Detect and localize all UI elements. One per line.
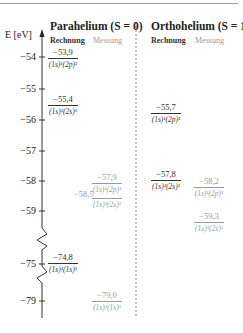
tick-label: −75 [6,258,36,269]
energy-level: (1s)¹(2s)¹ [92,188,122,208]
energy-level: −57,8 (1s)¹(2s)¹ [151,170,181,190]
tick-label: −59 [6,205,36,216]
tick-label: −58 [6,175,36,186]
level-value: −58,2 [194,177,224,187]
tick-label: −79 [6,295,36,306]
level-config: (1s)¹(2s)¹ [92,199,122,209]
tick-label: −54 [6,51,36,62]
level-value: −57,8 [151,170,181,180]
orthohelium-meas-label: Messung [195,36,224,45]
orthohelium-calc-label: Rechnung [151,36,186,45]
level-value: −79,0 [92,291,122,301]
energy-level: −79,0 (1s)¹(1s)¹ [92,291,122,311]
level-value: −55,7 [151,103,181,113]
energy-level: −53,9 (1s)¹(2p)¹ [48,48,78,68]
energy-level: −74,8 (1s)¹(1s)¹ [48,253,78,273]
level-config: (1s)¹(2p)¹ [151,114,181,124]
level-config: (1s)¹(1s)¹ [92,302,122,312]
parahelium-title: Parahelium (S = 0) [50,20,142,32]
axis-arrow-icon [40,29,45,37]
level-value: −57,9 [92,173,122,183]
level-config: (1s)¹(2p)¹ [194,188,224,198]
level-value: −58,5 [74,189,94,199]
level-value: −53,9 [48,48,78,58]
level-config: (1s)¹(1s)¹ [48,264,78,274]
level-value: −74,8 [48,253,78,263]
orthohelium-title: Orthohelium (S = 1) [151,20,243,32]
y-axis-label: E [eV] [5,29,32,40]
energy-level: −55,4 (1s)¹(2s)¹ [48,95,78,115]
level-config: (1s)¹(2p)¹ [48,59,78,69]
level-config: (1s)¹(2s)¹ [48,106,78,116]
level-config: (1s)¹(2s)¹ [151,181,181,191]
energy-axis-graphic [0,0,243,333]
energy-level: −55,7 (1s)¹(2p)¹ [151,103,181,123]
parahelium-meas-label: Messung [93,36,122,45]
energy-level: −59,3 (1s)¹(2s)¹ [194,212,224,232]
level-value: −59,3 [194,212,224,222]
level-value: −55,4 [48,95,78,105]
level-config: (1s)¹(2s)¹ [194,223,224,233]
tick-label: −55 [6,83,36,94]
energy-level: −58,2 (1s)¹(2p)¹ [194,177,224,197]
parahelium-calc-label: Rechnung [50,36,85,45]
tick-label: −57 [6,145,36,156]
tick-label: −56 [6,114,36,125]
